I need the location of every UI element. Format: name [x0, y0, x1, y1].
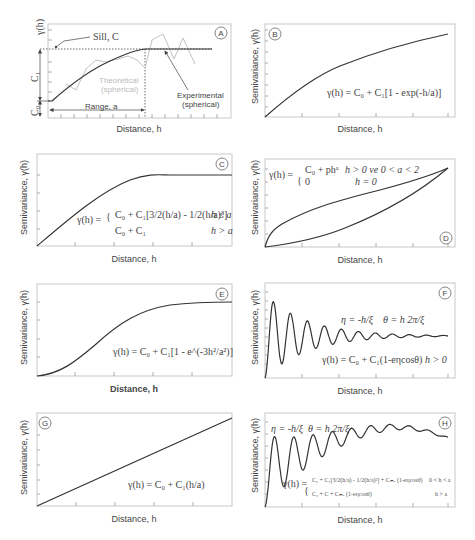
experimental-label-2: (spherical) — [182, 100, 220, 109]
eq-brace: { — [106, 211, 111, 222]
equation: γ(h) = C₀ + C₁[1 - e^(-3h²/a²)] — [112, 346, 233, 358]
y-axis-label: Semivariance, γ(h) — [19, 290, 29, 365]
eq-brace: { — [297, 175, 302, 186]
panel-h: η = -h/ξ θ = h 2π/ξ γ(h) = { C₀ + C₁[3/2… — [250, 413, 455, 525]
panel-badge: E — [219, 290, 224, 299]
eq-eta: η = -h/ξ — [271, 423, 304, 435]
sill-label: Sill, C — [93, 31, 119, 42]
panel-badge: B — [272, 30, 277, 39]
x-ticks — [302, 374, 448, 378]
y-axis-label: Semivariance, γ(h) — [250, 29, 260, 104]
eq-line2: C₀ + C₁ — [115, 225, 146, 236]
eq-cond: h > 0 — [425, 354, 447, 365]
exponential-curve — [265, 34, 448, 117]
panel-badge: G — [42, 419, 48, 428]
x-axis-label: Distance, h — [111, 254, 156, 264]
panel-b: γ(h) = C₀ + C₁[1 - exp(-h/a)] Semivarian… — [250, 24, 455, 134]
x-ticks — [302, 113, 448, 117]
x-axis-label: Distance, h — [337, 515, 382, 525]
eq-cond2: h > a — [211, 225, 233, 236]
y-axis-label: Semivariance, γ(h) — [250, 290, 260, 365]
eq-theta: θ = h 2π/ξ — [308, 423, 350, 435]
x-axis-label: Distance, h — [116, 124, 161, 134]
eq-line1: C₀ + C₁[3/2(h/a) - 1/2(h/a)³] + Cₘₐ (1-e… — [312, 477, 423, 484]
eq-eta: η = -h/ξ — [341, 314, 374, 326]
eq-cond2: h > a — [435, 491, 447, 497]
theoretical-label-2: (spherical) — [101, 85, 139, 94]
panel-badge: H — [442, 419, 448, 428]
theoretical-label-1: Theoretical — [99, 76, 139, 85]
y-axis-label: Semivariance, γ(h) — [250, 160, 260, 235]
sill-pointer — [56, 37, 90, 47]
experimental-pointer — [165, 51, 188, 90]
eq-lhs: γ(h) = — [268, 169, 294, 181]
x-axis-label: Distance, h — [110, 384, 158, 394]
y-axis-label: Semivariance, γ(h) — [19, 420, 29, 495]
c0-label: C₀ — [29, 105, 40, 116]
x-axis-label: Distance, h — [111, 514, 156, 524]
eq-line1: C₀ + phᵃ — [305, 164, 339, 175]
equation: γ(h) = C₀ + C₁(h/a) — [127, 479, 205, 491]
y-axis-label: γ(h) — [34, 19, 46, 36]
eq-brace: { — [304, 485, 309, 496]
equation: γ(h) = C₀ + C₁[1 - exp(-h/a)] — [326, 87, 441, 99]
eq-line2: C₀ + C + Cₘₐ (1-eηcosθ) — [312, 491, 372, 498]
y-axis-label: Semivariance, γ(h) — [250, 418, 260, 493]
panel-a: Sill, C γ(h) C₁ C₀ Range, a Theoretical … — [29, 19, 231, 134]
c1-label: C₁ — [29, 72, 40, 82]
panel-badge: F — [443, 289, 448, 298]
panel-f: η = -h/ξ θ = h 2π/ξ γ(h) = C₀ + C₁(1-eηc… — [250, 283, 455, 396]
eq-theta: θ = h 2π/ξ — [383, 314, 425, 326]
x-axis-label: Distance, h — [337, 386, 382, 396]
experimental-label-1: Experimental — [177, 91, 224, 100]
panel-badge: A — [218, 29, 224, 38]
x-ticks — [76, 502, 193, 506]
x-ticks — [61, 114, 217, 118]
x-ticks — [75, 242, 192, 246]
panel-d: γ(h) = { C₀ + phᵃ h > 0 ve 0 < a < 2 0 h… — [250, 159, 455, 265]
panel-g: γ(h) = C₀ + C₁(h/a) Semivariance, γ(h) D… — [19, 413, 232, 524]
y-ticks — [48, 30, 52, 92]
range-label: Range, a — [85, 102, 118, 111]
eq-cond1: 0 < h < a — [429, 477, 451, 483]
eq-line2: 0 — [305, 176, 310, 187]
x-axis-label: Distance, h — [337, 255, 382, 265]
panel-badge: D — [443, 234, 449, 243]
gaussian-curve — [37, 302, 232, 376]
eq-cond1: h > 0 ve 0 < a < 2 — [345, 164, 419, 175]
variogram-figure: Sill, C γ(h) C₁ C₀ Range, a Theoretical … — [0, 0, 475, 540]
eq-lhs: γ(h) = — [76, 214, 102, 226]
x-ticks — [302, 503, 448, 507]
eq-cond1: h ≤ a — [211, 209, 232, 220]
x-ticks — [302, 243, 448, 247]
y-axis-label: Semivariance, γ(h) — [19, 160, 29, 235]
linear-curve — [37, 418, 232, 506]
panel-badge: C — [219, 160, 225, 169]
panel-c: γ(h) = { C₀ + C₁[3/2(h/a) - 1/2(h/a)³] h… — [19, 154, 233, 264]
equation: γ(h) = C₀ + C₁(1-eηcosθ) — [321, 354, 422, 366]
x-ticks — [75, 372, 192, 376]
eq-cond2: h = 0 — [355, 176, 377, 187]
x-axis-label: Distance, h — [337, 124, 382, 134]
panel-e: γ(h) = C₀ + C₁[1 - e^(-3h²/a²)] Semivari… — [19, 284, 233, 394]
